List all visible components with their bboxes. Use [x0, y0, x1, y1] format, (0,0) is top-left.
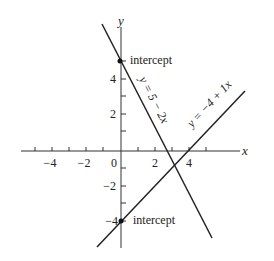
- tick-x-neg2: −2: [78, 156, 91, 170]
- tick-y-neg2: −2: [103, 179, 116, 193]
- tick-x-2: 2: [152, 156, 158, 170]
- graph: −4 −2 0 2 4 4 2 −2 −4 x y intercept inte…: [0, 0, 274, 261]
- tick-x-0: 0: [111, 156, 117, 170]
- tick-x-4: 4: [186, 156, 192, 170]
- tick-y-4: 4: [110, 72, 116, 86]
- y-axis-label: y: [116, 13, 124, 28]
- x-axis-label: x: [241, 143, 248, 158]
- intercept-label-bottom: intercept: [133, 213, 176, 227]
- tick-x-neg4: −4: [44, 156, 57, 170]
- tick-y-2: 2: [110, 107, 116, 121]
- intercept-label-top: intercept: [130, 53, 173, 67]
- line2-label: y = −4 + 1x: [183, 77, 235, 131]
- intercept-point-bottom: [119, 219, 124, 224]
- intercept-point-top: [118, 59, 123, 64]
- y-ticks: [121, 61, 126, 221]
